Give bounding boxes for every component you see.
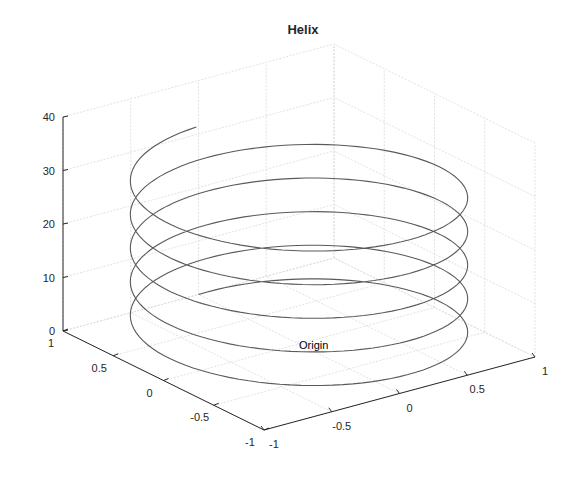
- y-tick-label: -0.5: [190, 411, 209, 423]
- tick-labels: -1-0.500.51-1-0.500.51010203040: [43, 111, 548, 450]
- y-tick-label: -1: [245, 436, 255, 448]
- tick-mark: [63, 330, 68, 331]
- z-tick-label: 10: [43, 272, 55, 284]
- grid-lines: [63, 44, 535, 430]
- x-tick-label: -0.5: [332, 420, 351, 432]
- back-wall-grid-line: [63, 205, 334, 278]
- z-tick-label: 0: [49, 325, 55, 337]
- origin-annotation: Origin: [299, 339, 328, 351]
- floor-grid-line: [214, 332, 485, 405]
- chart-title: Helix: [287, 22, 319, 37]
- figure: -1-0.500.51-1-0.500.51010203040 Origin H…: [0, 0, 581, 477]
- x-tick-label: 0.5: [470, 383, 485, 395]
- axes: [63, 116, 535, 430]
- helix-3d-plot: -1-0.500.51-1-0.500.51010203040 Origin H…: [0, 0, 581, 477]
- z-tick-label: 20: [43, 218, 55, 230]
- x-tick-label: 0: [406, 402, 412, 414]
- floor-grid-line: [113, 283, 384, 356]
- tick-mark: [63, 223, 68, 224]
- z-tick-label: 40: [43, 111, 55, 123]
- tick-mark: [63, 170, 68, 171]
- y-tick-label: 0: [146, 387, 152, 399]
- side-wall-grid-line: [334, 258, 535, 357]
- tick-mark: [63, 116, 68, 117]
- x-tick-label: 1: [542, 365, 548, 377]
- tick-mark: [63, 277, 68, 278]
- z-tick-label: 30: [43, 165, 55, 177]
- y-tick-label: 1: [48, 337, 54, 349]
- back-wall-grid-line: [63, 44, 334, 117]
- x-tick-label: -1: [269, 438, 279, 450]
- y-tick-label: 0.5: [92, 362, 107, 374]
